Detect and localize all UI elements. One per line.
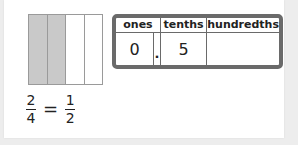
fraction-bar-part-shaded [48, 15, 67, 84]
denominator: 4 [27, 111, 36, 126]
cell-ones: 0 [116, 33, 154, 66]
fraction-left: 2 4 [26, 93, 36, 126]
cell-tenths: 5 [160, 33, 206, 66]
place-value-table: ones tenths hundredths 0 . 5 [112, 14, 283, 69]
fraction-equation: 2 4 = 1 2 [26, 91, 75, 127]
header-hundredths: hundredths [207, 18, 279, 33]
header-ones: ones [116, 18, 160, 33]
decimal-point: . [154, 33, 161, 66]
numerator: 1 [66, 93, 75, 108]
header-tenths: tenths [160, 18, 206, 33]
cell-hundredths [207, 33, 279, 66]
fraction-bar [28, 14, 103, 85]
fraction-bar-part-shaded [29, 15, 48, 84]
fraction-bar-part [66, 15, 85, 84]
equals-sign: = [43, 100, 58, 118]
content-panel: 2 4 = 1 2 ones tenths hundredths 0 . 5 [4, 0, 284, 138]
fraction-bar-part [85, 15, 103, 84]
numerator: 2 [27, 93, 36, 108]
denominator: 2 [66, 111, 75, 126]
fraction-right: 1 2 [65, 93, 75, 126]
